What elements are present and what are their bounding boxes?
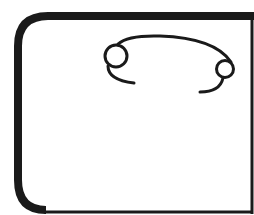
sketch-canvas bbox=[0, 0, 254, 215]
background bbox=[0, 0, 254, 215]
